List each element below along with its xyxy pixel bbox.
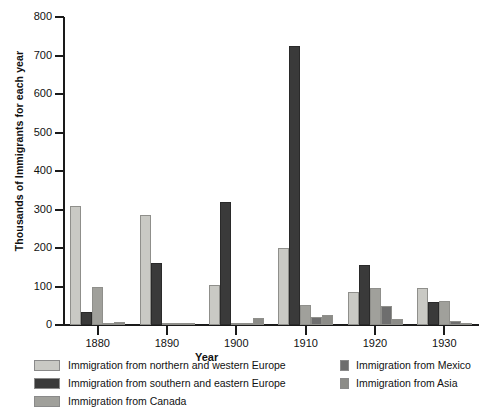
- y-tick-label: 400: [12, 165, 52, 176]
- bar: [140, 215, 151, 325]
- bar: [220, 202, 231, 325]
- y-tick-label: 500: [12, 127, 52, 138]
- legend-item[interactable]: Immigration from northern and western Eu…: [34, 357, 286, 373]
- y-tick: 800: [0, 11, 52, 22]
- plot-area: [63, 17, 479, 325]
- x-tick-mark: [374, 326, 376, 335]
- y-tick: 400: [0, 165, 52, 176]
- x-tick-label: 1890: [137, 337, 197, 349]
- y-tick-label: 0: [12, 319, 52, 330]
- bar: [348, 292, 359, 325]
- bar: [392, 319, 403, 325]
- bar: [231, 323, 242, 325]
- y-tick-label: 100: [12, 281, 52, 292]
- bar: [428, 302, 439, 325]
- bar: [70, 206, 81, 325]
- legend-item-label: Immigration from Canada: [68, 395, 186, 407]
- bar: [162, 323, 173, 325]
- y-tick-label: 200: [12, 242, 52, 253]
- x-tick-mark: [235, 326, 237, 335]
- bar: [173, 323, 184, 325]
- immigration-bar-chart: Thousands of Immigrants for each year 01…: [0, 0, 490, 409]
- bar: [92, 287, 103, 326]
- y-tick-label: 700: [12, 50, 52, 61]
- bar: [311, 317, 322, 325]
- legend-swatch-icon: [340, 378, 349, 389]
- legend-item-label: Immigration from northern and western Eu…: [68, 359, 286, 371]
- bar: [81, 312, 92, 325]
- legend-swatch-icon: [34, 396, 60, 407]
- bar: [103, 323, 114, 325]
- legend-item[interactable]: Immigration from Canada: [34, 393, 286, 409]
- x-tick-label: 1920: [345, 337, 405, 349]
- bar: [439, 301, 450, 325]
- x-tick-label: 1910: [276, 337, 336, 349]
- bar: [151, 263, 162, 325]
- bar: [359, 265, 370, 325]
- legend-swatch-icon: [34, 378, 60, 389]
- y-tick: 600: [0, 88, 52, 99]
- bar: [450, 321, 461, 325]
- y-tick: 300: [0, 204, 52, 215]
- bar: [461, 323, 472, 325]
- x-tick-mark: [166, 326, 168, 335]
- legend-column-right: Immigration from MexicoImmigration from …: [340, 357, 471, 393]
- x-tick-mark: [97, 326, 99, 335]
- y-tick: 100: [0, 281, 52, 292]
- legend-column-left: Immigration from northern and western Eu…: [34, 357, 286, 409]
- legend-swatch-icon: [34, 360, 60, 371]
- bar: [300, 305, 311, 325]
- y-tick-label: 800: [12, 11, 52, 22]
- bar: [114, 322, 125, 325]
- y-tick: 500: [0, 127, 52, 138]
- legend-item-label: Immigration from Asia: [356, 377, 458, 389]
- bar: [209, 285, 220, 325]
- y-axis-title: Thousands of Immigrants for each year: [13, 26, 25, 276]
- y-tick-label: 300: [12, 204, 52, 215]
- bar: [417, 288, 428, 325]
- bar: [322, 315, 333, 325]
- bar: [278, 248, 289, 325]
- y-tick: 700: [0, 50, 52, 61]
- x-tick-mark: [305, 326, 307, 335]
- legend-item[interactable]: Immigration from Mexico: [340, 357, 471, 373]
- y-tick: 0: [0, 319, 52, 330]
- bar: [289, 46, 300, 325]
- legend-item[interactable]: Immigration from southern and eastern Eu…: [34, 375, 286, 391]
- bar: [370, 288, 381, 325]
- bar: [242, 323, 253, 325]
- legend-item[interactable]: Immigration from Asia: [340, 375, 471, 391]
- y-tick-label: 600: [12, 88, 52, 99]
- bar: [381, 306, 392, 325]
- legend-item-label: Immigration from Mexico: [356, 359, 471, 371]
- bar: [253, 318, 264, 325]
- y-tick: 200: [0, 242, 52, 253]
- legend-swatch-icon: [340, 360, 349, 371]
- bar: [184, 323, 195, 325]
- x-tick-label: 1930: [414, 337, 474, 349]
- x-tick-mark: [443, 326, 445, 335]
- legend-item-label: Immigration from southern and eastern Eu…: [68, 377, 286, 389]
- x-tick-label: 1880: [68, 337, 128, 349]
- x-tick-label: 1900: [206, 337, 266, 349]
- chart-legend: Immigration from northern and western Eu…: [34, 357, 482, 405]
